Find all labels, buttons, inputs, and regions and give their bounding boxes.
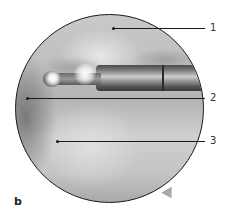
instrument-tip [43,71,61,87]
instrument-shaft [96,65,204,91]
view-orientation-notch [161,187,176,202]
label-2-leader [27,98,205,99]
light-glare [74,63,96,85]
shaft-marking [162,65,164,91]
endoscopic-view [15,14,204,203]
panel-label: b [14,195,22,208]
label-1-leader [113,28,205,29]
label-3-number: 3 [210,136,216,146]
label-3-leader [57,141,205,142]
label-1-number: 1 [210,23,216,33]
label-2-number: 2 [210,93,216,103]
